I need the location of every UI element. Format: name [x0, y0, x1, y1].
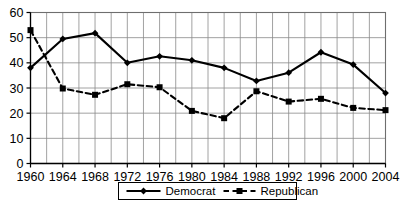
series-point-democrat: [221, 64, 228, 71]
x-tick-label: 1968: [81, 170, 109, 184]
series-point-republican: [253, 88, 259, 94]
chart-canvas: 6050403020100196019641968197219761980198…: [0, 0, 409, 212]
x-tick-label: 2000: [339, 170, 367, 184]
y-tick-label: 50: [10, 31, 24, 45]
series-point-republican: [189, 108, 195, 114]
x-tick-label: 1980: [178, 170, 206, 184]
series-point-republican: [221, 115, 227, 121]
line-chart: 6050403020100196019641968197219761980198…: [0, 0, 409, 212]
x-tick-label: 1960: [17, 170, 45, 184]
series-point-democrat: [156, 53, 163, 60]
series-point-republican: [28, 27, 34, 33]
y-tick-label: 60: [10, 6, 24, 20]
series-point-republican: [60, 86, 66, 92]
x-tick-label: 1972: [113, 170, 141, 184]
series-point-republican: [157, 84, 163, 90]
legend-label-republican: Republican: [261, 185, 319, 197]
series-point-republican: [383, 107, 389, 113]
x-tick-label: 2004: [372, 170, 400, 184]
y-tick-label: 40: [10, 56, 24, 70]
y-tick-label: 20: [10, 107, 24, 121]
x-tick-label: 1992: [275, 170, 303, 184]
legend-label-democrat: Democrat: [166, 185, 217, 197]
series-point-republican: [318, 96, 324, 102]
x-tick-label: 1984: [210, 170, 238, 184]
x-tick-label: 1988: [243, 170, 271, 184]
legend-marker-republican: [237, 188, 243, 194]
series-point-republican: [350, 105, 356, 111]
x-tick-label: 1964: [49, 170, 77, 184]
series-point-republican: [286, 99, 292, 105]
x-tick-label: 1976: [146, 170, 174, 184]
x-tick-label: 1996: [307, 170, 335, 184]
y-tick-label: 30: [10, 82, 24, 96]
y-tick-label: 10: [10, 132, 24, 146]
series-point-democrat: [253, 78, 260, 85]
series-point-republican: [92, 92, 98, 98]
series-point-republican: [124, 81, 130, 87]
